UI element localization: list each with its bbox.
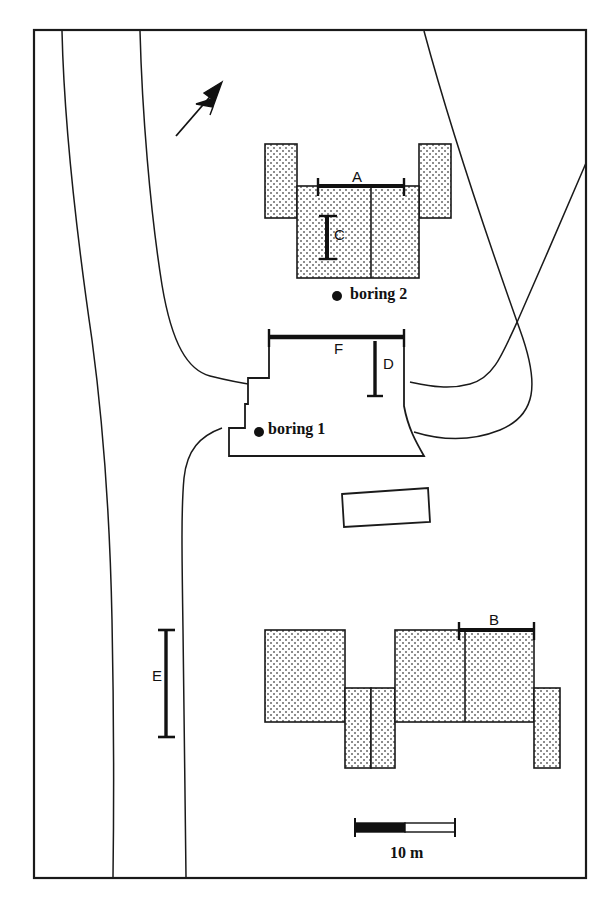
scale-bar-label: 10 m	[390, 844, 423, 862]
dimension-label-f: F	[334, 340, 343, 357]
north-building-left-wing	[265, 144, 297, 218]
dimension-label-b: B	[489, 611, 499, 628]
south-building-complex	[265, 630, 560, 768]
boring-2-label: boring 2	[350, 285, 407, 303]
center-building-boring1	[229, 337, 424, 456]
north-building-complex	[265, 144, 451, 278]
south-building-block-5	[534, 688, 560, 768]
dimension-label-d: D	[383, 355, 394, 372]
east-road-upper-inner-edge	[548, 31, 586, 163]
south-building-block-1	[265, 630, 345, 722]
dimension-label-e: E	[152, 667, 162, 684]
north-building-right-wing	[419, 144, 451, 218]
scale-bar	[355, 818, 455, 837]
north-building-main-block	[297, 186, 419, 278]
dimension-label-a: A	[352, 168, 362, 185]
south-building-block-2	[345, 688, 371, 768]
boring-2-dot	[332, 291, 342, 301]
boring-1-label: boring 1	[268, 420, 325, 438]
center-building-outline	[229, 337, 424, 456]
site-plan-figure: A B C D E F boring 1 boring 2 10 m	[0, 0, 614, 914]
site-plan-canvas	[0, 0, 614, 914]
south-building-block-3	[371, 688, 395, 768]
west-road-south-branch	[182, 428, 222, 877]
west-road-inner-edge	[140, 31, 262, 386]
west-road-outer-edge	[62, 31, 114, 877]
dimension-label-c: C	[334, 226, 345, 243]
east-road-loop-outer-edge	[414, 31, 532, 439]
small-outbuilding	[342, 488, 430, 527]
north-arrow-icon	[176, 82, 222, 136]
boring-1-dot	[254, 427, 264, 437]
